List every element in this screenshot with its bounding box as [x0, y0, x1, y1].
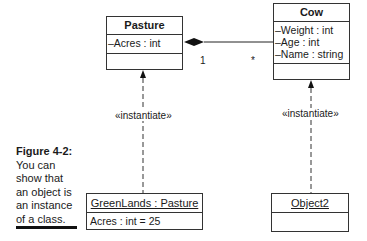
arrowhead-icon [140, 70, 146, 78]
object-object2: Object2 [271, 193, 349, 232]
caption-text: You can show that an object is an instan… [16, 159, 78, 227]
object-attribute: Acres : int = 25 [87, 215, 202, 227]
figure-caption: Figure 4-2: You can show that an object … [16, 145, 78, 226]
stereotype-label: «instantiate» [282, 108, 339, 119]
class-attribute: –Age : int [274, 36, 349, 48]
stereotype-label: «instantiate» [115, 110, 172, 121]
object-greenlands: GreenLands : Pasture Acres : int = 25 [86, 193, 203, 230]
class-cow: Cow –Weight : int –Age : int –Name : str… [273, 3, 350, 80]
arrowhead-icon [308, 80, 314, 88]
class-attribute: –Acres : int [107, 37, 182, 49]
caption-rule [16, 226, 77, 229]
multiplicity-from: 1 [200, 55, 206, 66]
figure-number: Figure 4-2: [16, 145, 78, 159]
class-pasture: Pasture –Acres : int [106, 16, 183, 70]
object-name: GreenLands : Pasture [87, 194, 202, 212]
class-attribute: –Name : string [274, 48, 349, 60]
class-name: Cow [274, 4, 349, 21]
object-name: Object2 [272, 194, 348, 212]
composition-diamond-icon [184, 38, 204, 46]
multiplicity-to: * [251, 55, 255, 66]
class-attribute: –Weight : int [274, 24, 349, 36]
class-name: Pasture [107, 17, 182, 34]
